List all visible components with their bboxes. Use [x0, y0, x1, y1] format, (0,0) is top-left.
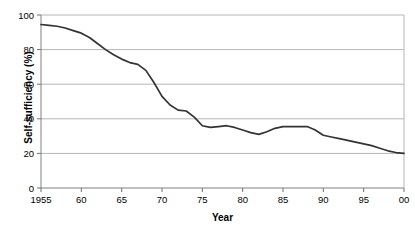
- x-tick-label-1985: 85: [278, 194, 289, 205]
- x-tick-label-1975: 75: [197, 194, 208, 205]
- series-line-0: [41, 25, 404, 154]
- x-axis-title: Year: [41, 212, 404, 223]
- x-tick-label-1990: 90: [318, 194, 329, 205]
- x-tick-label-2000: 00: [399, 194, 410, 205]
- gridlines-group: [41, 15, 404, 153]
- x-tick-label-1955: 1955: [30, 194, 51, 205]
- y-tick-label-0: 0: [29, 183, 34, 194]
- y-tick-label-20: 20: [23, 148, 34, 159]
- plot-area: 020406080100 1955606570758085909500: [0, 0, 415, 231]
- y-tick-label-60: 60: [23, 79, 34, 90]
- self-sufficiency-line-chart: Self-sufficiency (%) 020406080100 195560…: [0, 0, 415, 231]
- y-axis-ticks-group: 020406080100: [18, 10, 41, 194]
- y-tick-label-40: 40: [23, 113, 34, 124]
- x-tick-label-1965: 65: [116, 194, 127, 205]
- data-series-group: [41, 25, 404, 154]
- x-tick-label-1980: 80: [237, 194, 248, 205]
- x-tick-label-1970: 70: [157, 194, 168, 205]
- x-tick-label-1995: 95: [358, 194, 369, 205]
- y-tick-label-80: 80: [23, 44, 34, 55]
- axis-lines-group: [41, 15, 404, 188]
- y-tick-label-100: 100: [18, 10, 34, 21]
- x-axis-ticks-group: 1955606570758085909500: [30, 188, 409, 205]
- x-tick-label-1960: 60: [76, 194, 87, 205]
